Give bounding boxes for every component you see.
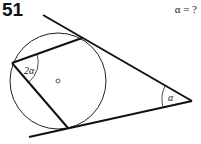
center-point [56, 79, 60, 83]
inscribed-angle-label: 2α [24, 65, 35, 76]
tangent-line-upper [43, 15, 192, 101]
apex-angle-label: α [168, 92, 174, 103]
chord-upper [12, 38, 82, 63]
geometry-figure: 2α α [0, 0, 201, 144]
tangent-line-lower [29, 101, 192, 137]
chord-lower [12, 63, 68, 128]
apex-angle-arc [162, 86, 165, 107]
